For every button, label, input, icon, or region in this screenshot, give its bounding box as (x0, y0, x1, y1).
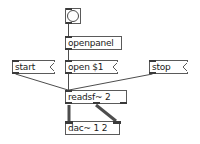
start-message-label: start (15, 62, 35, 72)
cord-start-to-readsf (16, 74, 69, 90)
open-message-label: open $1 (68, 62, 103, 72)
start-message-inlet-0[interactable] (12, 60, 19, 62)
bang-outlet-0[interactable] (66, 22, 72, 24)
stop-message-label: stop (152, 62, 171, 72)
cord-readsf-out1-to-dac-in1 (96, 105, 116, 121)
stop-message-outlet-0[interactable] (149, 72, 156, 74)
readsf-object[interactable]: readsf~ 2 (65, 90, 127, 104)
bang-circle-icon (67, 10, 79, 22)
start-message-box[interactable]: start (12, 60, 55, 74)
bang-object[interactable] (65, 8, 81, 24)
open-message-box[interactable]: open $1 (65, 60, 118, 74)
cord-stop-to-readsf (69, 74, 153, 90)
bang-inlet-0[interactable] (66, 8, 72, 10)
readsf-outlet-1[interactable] (93, 102, 100, 104)
stop-message-box[interactable]: stop (149, 60, 188, 74)
open-message-outlet-0[interactable] (65, 72, 72, 74)
pd-patch-canvas[interactable]: openpanel open $1 start stop readsf~ 2 d… (0, 0, 200, 144)
open-message-inlet-0[interactable] (65, 60, 72, 62)
dac-inlet-1[interactable] (113, 121, 121, 124)
readsf-outlet-2[interactable] (120, 102, 127, 104)
dac-label: dac~ 1 2 (68, 123, 107, 133)
readsf-outlet-0[interactable] (65, 102, 72, 104)
dac-inlet-0[interactable] (65, 121, 73, 124)
readsf-inlet-0[interactable] (65, 90, 72, 92)
start-message-outlet-0[interactable] (12, 72, 19, 74)
dac-object[interactable]: dac~ 1 2 (65, 121, 120, 135)
stop-message-inlet-0[interactable] (149, 60, 156, 62)
openpanel-inlet-0[interactable] (65, 36, 72, 38)
openpanel-object[interactable]: openpanel (65, 36, 122, 50)
readsf-label: readsf~ 2 (68, 92, 110, 102)
openpanel-outlet-0[interactable] (65, 48, 72, 50)
openpanel-label: openpanel (68, 38, 114, 48)
